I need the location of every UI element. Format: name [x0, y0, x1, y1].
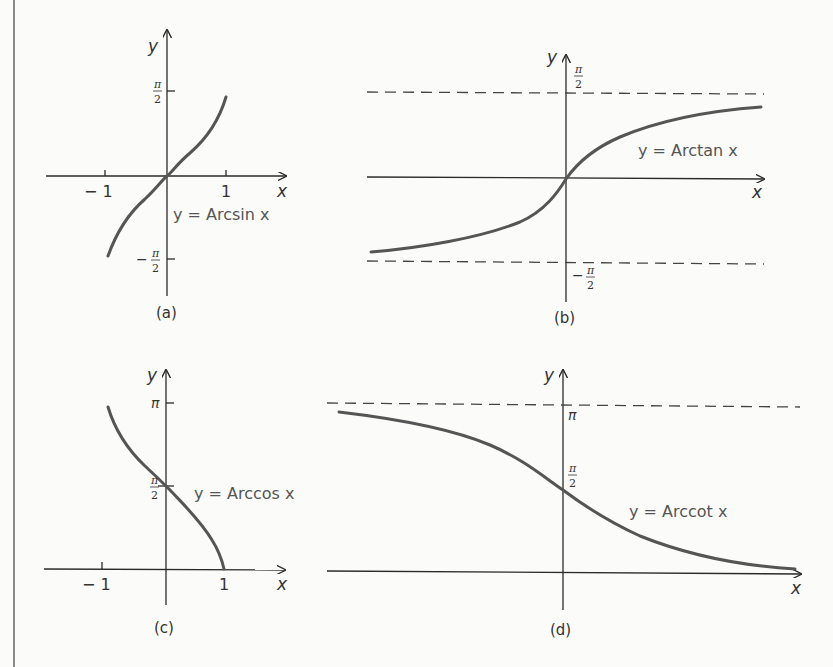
x-axis-label: x [751, 182, 763, 202]
y-axis-label: y [146, 365, 158, 385]
svg-text:π: π [153, 78, 162, 91]
svg-text:2: 2 [587, 279, 594, 292]
svg-text:2: 2 [575, 78, 582, 91]
panel-caption: (a) [156, 304, 177, 322]
svg-text:π: π [150, 474, 159, 487]
y-tick-label-neg-pi-half: − π 2 [572, 264, 595, 292]
svg-text:2: 2 [151, 489, 158, 502]
x-axis [327, 571, 801, 574]
svg-text:π: π [568, 462, 577, 475]
x-axis-label: x [790, 578, 802, 598]
y-tick-label-pi-half: π 2 [574, 63, 583, 91]
y-tick-label-neg-pi-half: − π 2 [136, 247, 160, 275]
equation-label: y = Arccot x [629, 502, 727, 521]
panel-d-arccot: y x π π 2 y = Arccot x (d) [327, 365, 802, 639]
y-tick-label-pi: π [568, 407, 577, 423]
x-axis [44, 569, 285, 570]
svg-text:2: 2 [152, 262, 159, 275]
x-axis-label: x [276, 181, 288, 201]
svg-text:π: π [586, 264, 595, 277]
x-tick-label-neg1: − 1 [82, 575, 111, 594]
y-tick-label-pi-half: π 2 [150, 474, 159, 502]
x-tick-label-1: 1 [221, 182, 231, 201]
y-axis-label: y [543, 365, 555, 385]
equation-label: y = Arccos x [194, 484, 295, 503]
panel-caption: (c) [154, 619, 174, 637]
svg-text:2: 2 [569, 477, 576, 490]
panel-a-arcsin: y x − 1 1 π 2 − π 2 y = Arcsin x (a) [46, 30, 288, 322]
panel-caption: (b) [554, 309, 575, 327]
equation-label: y = Arctan x [638, 141, 738, 160]
y-tick-label-pi-half: π 2 [568, 462, 577, 490]
x-tick-label-neg1: − 1 [84, 182, 113, 201]
y-tick-label-pi-half: π 2 [153, 78, 162, 106]
svg-text:−: − [572, 267, 584, 283]
arccot-curve [339, 412, 795, 569]
svg-text:2: 2 [154, 93, 161, 106]
svg-text:π: π [151, 247, 160, 260]
panel-c-arccos: y x − 1 1 π π 2 y = Arccos x (c) [44, 365, 295, 637]
panel-caption: (d) [550, 621, 571, 639]
y-axis-label: y [546, 47, 558, 67]
svg-text:π: π [574, 63, 583, 76]
svg-text:−: − [136, 251, 148, 267]
equation-label: y = Arcsin x [173, 205, 270, 224]
y-axis-label: y [147, 36, 159, 56]
x-axis-label: x [276, 574, 288, 594]
y-tick-label-pi: π [151, 395, 160, 411]
x-tick-label-1: 1 [219, 575, 229, 594]
panel-b-arctan: y x π 2 − π 2 y = Arctan x (b) [367, 47, 764, 327]
